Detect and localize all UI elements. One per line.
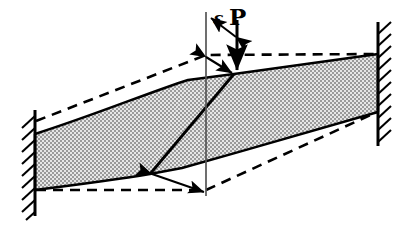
top-displacement-arrow — [206, 57, 232, 73]
left-wall-hatching — [22, 116, 35, 220]
right-fixed-support — [378, 22, 391, 146]
eccentricity-label: ε — [213, 10, 223, 27]
diagram-canvas: ε P — [0, 0, 397, 229]
load-label: P — [229, 5, 246, 28]
left-fixed-support — [22, 110, 35, 220]
beam-fill-left-segment — [35, 80, 188, 190]
beam-deformation-figure — [0, 0, 397, 229]
right-wall-hatching — [378, 22, 391, 142]
